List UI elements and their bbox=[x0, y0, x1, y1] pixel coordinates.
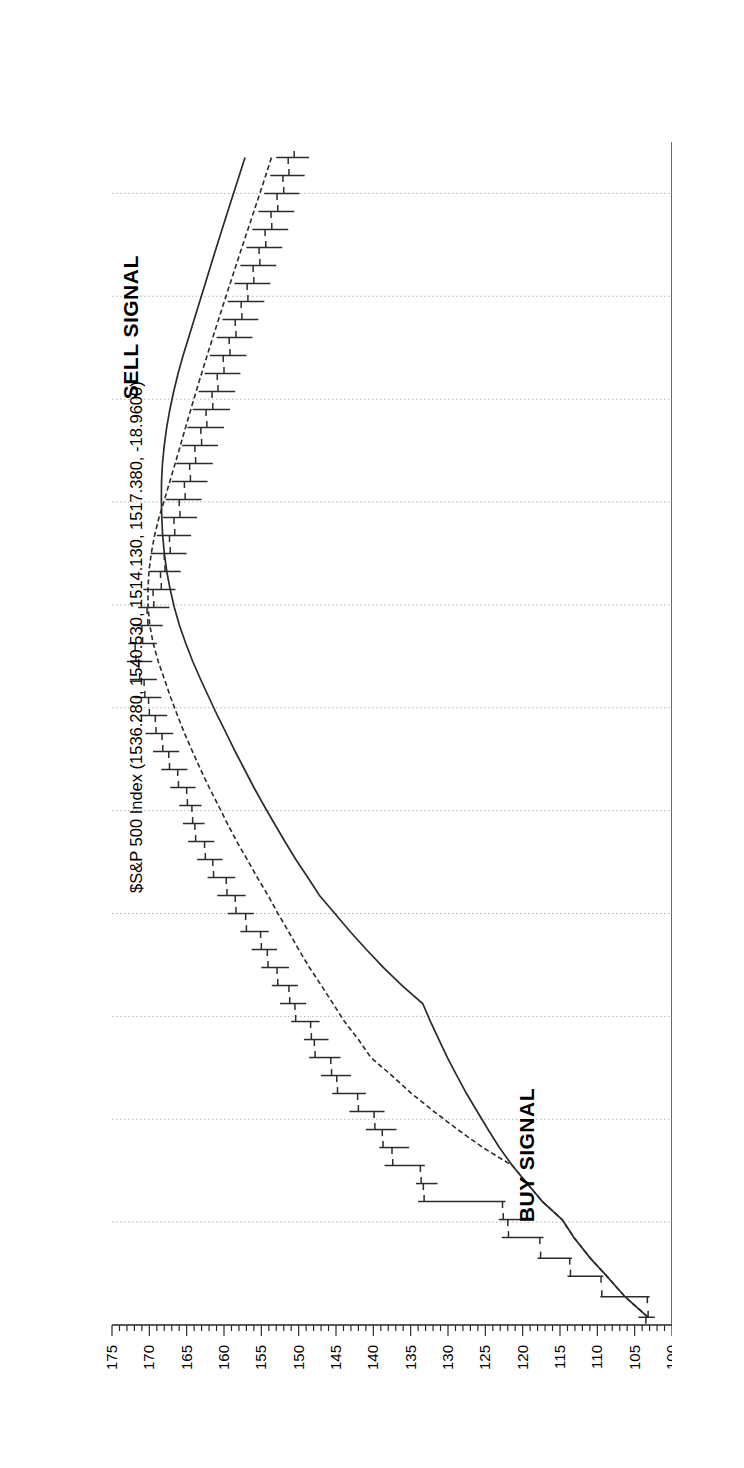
ohlc-bars bbox=[127, 151, 655, 1324]
price-axis-label: 130 bbox=[439, 1345, 456, 1370]
price-axis-label: 140 bbox=[364, 1345, 381, 1370]
sell-signal-annotation: SELL SIGNAL bbox=[119, 255, 142, 399]
price-axis-label: 175 bbox=[103, 1345, 120, 1370]
price-axis-label: 120 bbox=[514, 1345, 531, 1370]
ohlc-chart-svg: 1751701651601551501451401351301251201151… bbox=[72, 89, 672, 1379]
price-axis-label: 115 bbox=[551, 1345, 568, 1369]
price-axis-label: 105 bbox=[626, 1345, 643, 1370]
moving-average-fast-line bbox=[148, 157, 648, 1317]
moving-average-slow-line bbox=[161, 157, 648, 1317]
buy-signal-annotation: BUY SIGNAL bbox=[515, 1088, 538, 1222]
price-axis-label: 155 bbox=[252, 1345, 269, 1370]
price-axis-label: 100 bbox=[663, 1345, 672, 1370]
price-axis-label: 145 bbox=[327, 1345, 344, 1370]
chart-canvas: 1751701651601551501451401351301251201151… bbox=[0, 0, 744, 1468]
chart-title: $S&P 500 Index (1536.280, 1540.530, 1514… bbox=[127, 381, 145, 893]
plot-area: 1751701651601551501451401351301251201151… bbox=[72, 89, 672, 1379]
price-axis-label: 110 bbox=[588, 1345, 605, 1369]
price-axis-label: 135 bbox=[402, 1345, 419, 1370]
rotated-chart-group: 1751701651601551501451401351301251201151… bbox=[72, 89, 672, 1379]
price-axis-label: 125 bbox=[476, 1345, 493, 1370]
price-axis-label: 170 bbox=[140, 1345, 157, 1370]
price-axis-label: 165 bbox=[178, 1345, 195, 1370]
price-axis-label: 160 bbox=[215, 1345, 232, 1370]
price-axis-label: 150 bbox=[290, 1345, 307, 1370]
